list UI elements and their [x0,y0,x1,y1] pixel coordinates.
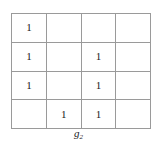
table-row: 1 1 [12,42,151,71]
grid-cell-r3c2 [46,71,81,100]
table-row: 1 [12,14,151,43]
grid-cell-r4c4 [116,100,151,129]
grid-cell-r4c3: 1 [81,100,116,129]
grid-cell-r1c3 [81,14,116,43]
grid-cell-r2c2 [46,42,81,71]
grid-cell-r1c1: 1 [12,14,47,43]
grid-body: 1 1 1 1 1 1 1 [12,14,151,129]
grid-cell-r2c3: 1 [81,42,116,71]
caption-symbol: g [74,127,80,139]
grid-cell-r4c1 [12,100,47,129]
grid-cell-r3c1: 1 [12,71,47,100]
caption-subscript: 2 [80,133,84,141]
grid-cell-r3c4 [116,71,151,100]
grid-cell-r1c4 [116,14,151,43]
grid-cell-r3c3: 1 [81,71,116,100]
figure-caption: g2 [0,128,157,139]
table-row: 1 1 [12,71,151,100]
grid-cell-r2c1: 1 [12,42,47,71]
grid-cell-r4c2: 1 [46,100,81,129]
figure-container: 1 1 1 1 1 1 1 [0,0,157,148]
grid-cell-r1c2 [46,14,81,43]
table-row: 1 1 [12,100,151,129]
binary-matrix-grid: 1 1 1 1 1 1 1 [11,13,151,129]
grid-cell-r2c4 [116,42,151,71]
